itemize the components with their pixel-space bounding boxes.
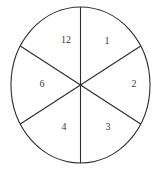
six-sector-circle-diagram: 12 1 2 3 4 6 — [0, 0, 161, 170]
sector-label-top-left: 12 — [61, 34, 71, 45]
circle-sector-figure: 12 1 2 3 4 6 — [0, 0, 161, 170]
sector-label-top-right: 1 — [105, 35, 110, 46]
sector-label-bottom-left: 4 — [62, 121, 67, 132]
sector-label-left: 6 — [40, 78, 45, 89]
sector-label-bottom-right: 3 — [106, 121, 111, 132]
sector-label-right: 2 — [132, 78, 137, 89]
